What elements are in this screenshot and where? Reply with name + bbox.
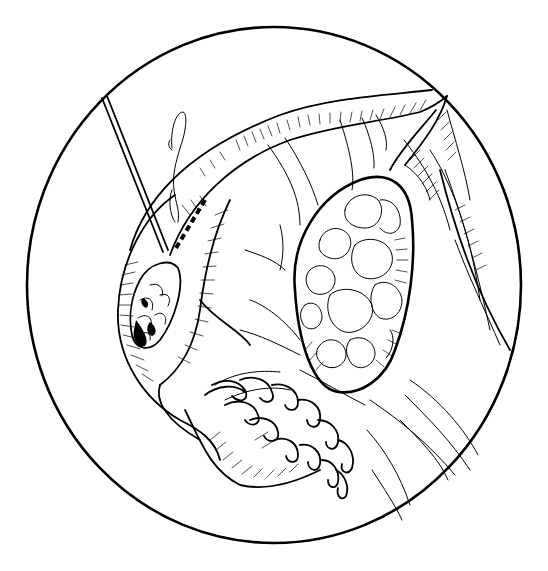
lobulated-oval-mass xyxy=(294,177,413,392)
instrument-probe xyxy=(102,96,168,252)
suture-needle-loop xyxy=(169,112,186,222)
fimbriated-end xyxy=(185,378,353,499)
illustration-canvas: Circular black-and-white medical line il… xyxy=(0,0,548,571)
dark-granular-lesion xyxy=(130,263,180,348)
medical-illustration xyxy=(0,0,548,571)
tubular-organ xyxy=(130,90,510,350)
dashed-incision-line xyxy=(176,200,205,248)
